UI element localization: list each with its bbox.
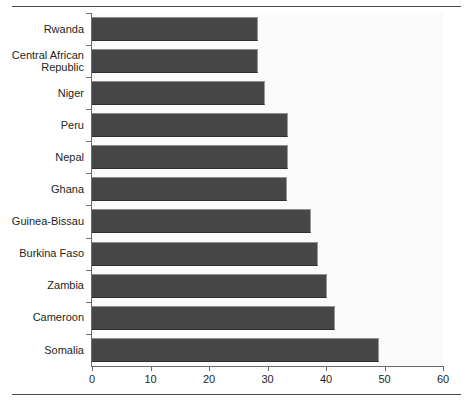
- bar-row: Ghana: [0, 173, 469, 205]
- bar-track: [92, 242, 318, 266]
- bar[interactable]: [92, 145, 288, 169]
- bar[interactable]: [92, 306, 335, 330]
- x-axis-tick-label: 60: [437, 373, 449, 385]
- category-label: Cameroon: [0, 302, 84, 334]
- bar-row: Zambia: [0, 270, 469, 302]
- bar-row: Central African Republic: [0, 45, 469, 77]
- bar-row: Cameroon: [0, 302, 469, 334]
- category-label: Peru: [0, 109, 84, 141]
- bar[interactable]: [92, 113, 288, 137]
- bar-row: Peru: [0, 109, 469, 141]
- bar-track: [92, 209, 311, 233]
- bar-row: Nepal: [0, 141, 469, 173]
- bar-row: Rwanda: [0, 13, 469, 45]
- bar[interactable]: [92, 242, 318, 266]
- bar[interactable]: [92, 17, 258, 41]
- y-axis-tick: [86, 238, 92, 239]
- bar[interactable]: [92, 274, 327, 298]
- x-axis-tick: [268, 366, 269, 371]
- y-axis-tick: [86, 45, 92, 46]
- bar[interactable]: [92, 338, 379, 362]
- y-axis-tick: [86, 13, 92, 14]
- category-label: Ghana: [0, 173, 84, 205]
- x-axis-tick: [326, 366, 327, 371]
- bar-track: [92, 113, 288, 137]
- bar-track: [92, 145, 288, 169]
- x-axis-ticks: 0102030405060: [0, 366, 469, 396]
- category-label: Rwanda: [0, 13, 84, 45]
- x-axis-tick-label: 20: [203, 373, 215, 385]
- x-axis-tick: [209, 366, 210, 371]
- y-axis-tick: [86, 270, 92, 271]
- category-label: Zambia: [0, 270, 84, 302]
- x-axis-tick: [92, 366, 93, 371]
- y-axis-tick: [86, 302, 92, 303]
- bar-row: Guinea-Bissau: [0, 205, 469, 237]
- bar-row: Burkina Faso: [0, 238, 469, 270]
- x-axis-tick-label: 50: [378, 373, 390, 385]
- category-label: Niger: [0, 77, 84, 109]
- bar[interactable]: [92, 209, 311, 233]
- x-axis-tick-label: 0: [89, 373, 95, 385]
- bar-row: Somalia: [0, 334, 469, 366]
- bar[interactable]: [92, 81, 265, 105]
- category-label: Guinea-Bissau: [0, 205, 84, 237]
- y-axis-tick: [86, 173, 92, 174]
- bar-track: [92, 177, 287, 201]
- bar-track: [92, 17, 258, 41]
- y-axis-tick: [86, 77, 92, 78]
- x-axis-tick: [151, 366, 152, 371]
- x-axis-tick-label: 30: [261, 373, 273, 385]
- bar-track: [92, 81, 265, 105]
- chart-figure: RwandaCentral African RepublicNigerPeruN…: [0, 0, 469, 404]
- bar[interactable]: [92, 177, 287, 201]
- bar-row: Niger: [0, 77, 469, 109]
- x-axis-tick: [385, 366, 386, 371]
- x-axis-tick-label: 10: [144, 373, 156, 385]
- bar-track: [92, 306, 335, 330]
- y-axis-tick: [86, 109, 92, 110]
- y-axis-tick: [86, 334, 92, 335]
- category-label: Somalia: [0, 334, 84, 366]
- x-axis-tick-label: 40: [320, 373, 332, 385]
- y-axis-tick: [86, 141, 92, 142]
- bar-track: [92, 274, 327, 298]
- bar-rows: RwandaCentral African RepublicNigerPeruN…: [0, 13, 469, 366]
- y-axis-tick: [86, 205, 92, 206]
- category-label: Burkina Faso: [0, 238, 84, 270]
- bar[interactable]: [92, 49, 258, 73]
- category-label: Central African Republic: [0, 45, 84, 77]
- bar-track: [92, 49, 258, 73]
- bar-track: [92, 338, 379, 362]
- x-axis-tick: [443, 366, 444, 371]
- category-label: Nepal: [0, 141, 84, 173]
- top-divider-rule: [12, 6, 461, 7]
